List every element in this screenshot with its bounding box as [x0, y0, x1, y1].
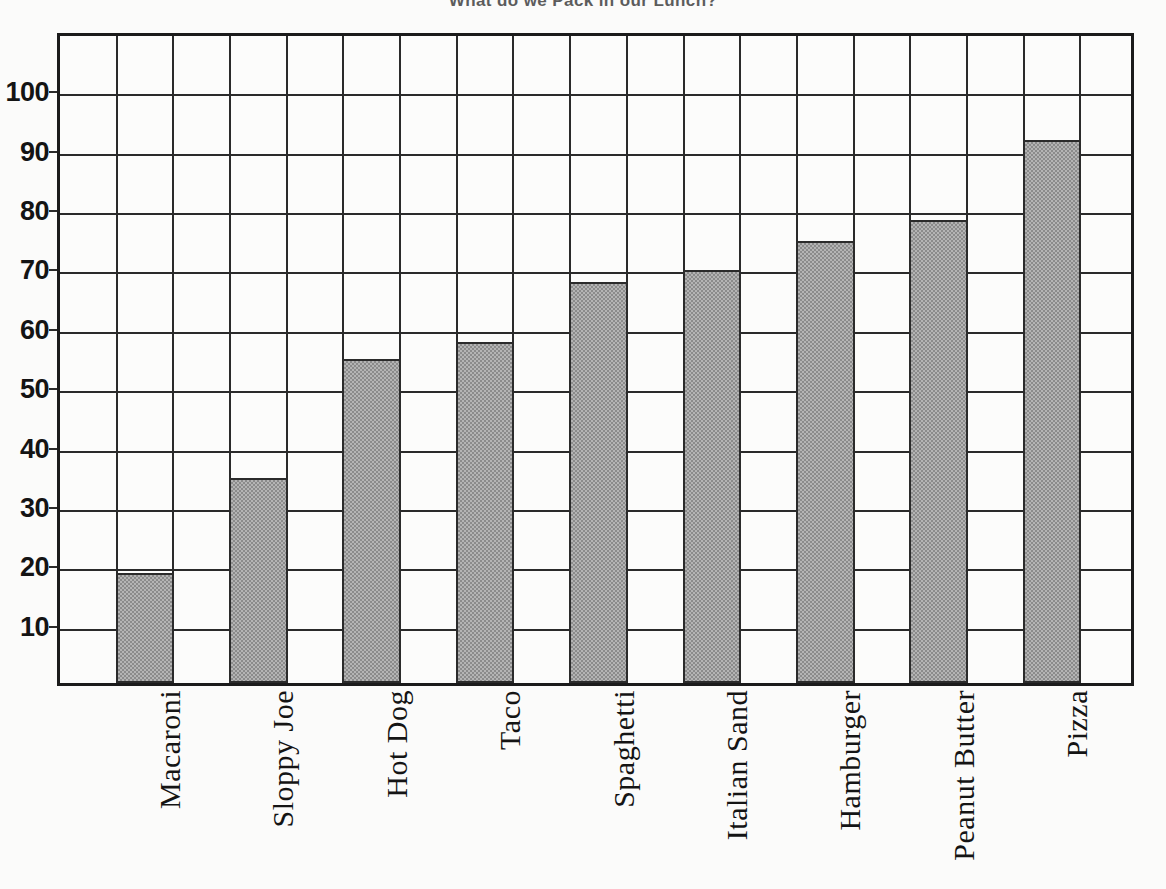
- x-axis-label-macaroni: Macaroni: [153, 690, 187, 809]
- bar: [569, 282, 628, 683]
- y-axis-tick-mark: [49, 566, 57, 568]
- bar: [1023, 140, 1082, 683]
- bar: [116, 573, 175, 683]
- y-axis-tick-mark: [49, 388, 57, 390]
- x-axis-tick-label: Peanut Butter: [947, 690, 981, 861]
- y-axis-tick-mark: [49, 91, 57, 93]
- x-axis-label-taco: Taco: [493, 690, 527, 750]
- y-axis-tick-mark: [49, 448, 57, 450]
- y-axis-tick-label: 30: [20, 492, 49, 523]
- horizontal-gridline: [60, 154, 1131, 156]
- bar: [909, 220, 968, 683]
- x-axis-label-sloppy-joe: Sloppy Joe: [266, 690, 300, 828]
- x-axis-tick-label: Macaroni: [153, 690, 187, 809]
- y-axis-tick-label: 50: [20, 374, 49, 405]
- y-axis-tick-mark: [49, 329, 57, 331]
- x-axis-tick-label: Sloppy Joe: [266, 690, 300, 828]
- y-axis-tick-label: 100: [5, 77, 49, 108]
- x-axis-tick-label: Pizza: [1060, 690, 1094, 757]
- y-axis-tick-mark: [49, 269, 57, 271]
- x-axis-tick-label: Hamburger: [833, 690, 867, 831]
- y-axis-tick-mark: [49, 151, 57, 153]
- x-axis-tick-label: Taco: [493, 690, 527, 750]
- y-axis-tick-label: 80: [20, 196, 49, 227]
- horizontal-gridline: [60, 272, 1131, 274]
- y-axis-tick-label: 40: [20, 433, 49, 464]
- y-axis-tick-label: 90: [20, 136, 49, 167]
- bar: [683, 270, 742, 683]
- y-axis-tick-mark: [49, 210, 57, 212]
- y-axis-tick-mark: [49, 507, 57, 509]
- x-axis-label-peanut-butter: Peanut Butter: [947, 690, 981, 861]
- bar: [229, 478, 288, 683]
- horizontal-gridline: [60, 94, 1131, 96]
- horizontal-gridline: [60, 213, 1131, 215]
- x-axis-label-hot-dog: Hot Dog: [380, 690, 414, 798]
- x-axis-labels: MacaroniSloppy JoeHot DogTacoSpaghettiIt…: [57, 690, 1134, 889]
- x-axis-label-hamburger: Hamburger: [833, 690, 867, 831]
- x-axis-tick-label: Italian Sand: [720, 690, 754, 840]
- bar-chart: What do we Pack in our Lunch? 1020304050…: [0, 0, 1166, 889]
- x-axis-label-spaghetti: Spaghetti: [607, 690, 641, 808]
- x-axis-tick-label: Hot Dog: [380, 690, 414, 798]
- y-axis-tick-mark: [49, 626, 57, 628]
- chart-title: What do we Pack in our Lunch?: [0, 0, 1166, 11]
- bar: [456, 342, 515, 683]
- x-axis-tick-label: Spaghetti: [607, 690, 641, 808]
- y-axis-tick-label: 70: [20, 255, 49, 286]
- x-axis-label-pizza: Pizza: [1060, 690, 1094, 757]
- bar: [342, 359, 401, 683]
- bar: [796, 241, 855, 683]
- y-axis-tick-label: 10: [20, 611, 49, 642]
- y-axis-tick-label: 20: [20, 552, 49, 583]
- y-axis: 102030405060708090100: [0, 33, 57, 686]
- plot-area: [57, 33, 1134, 686]
- y-axis-tick-label: 60: [20, 314, 49, 345]
- x-axis-label-italian-sand: Italian Sand: [720, 690, 754, 840]
